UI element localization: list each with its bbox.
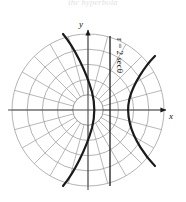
cartesian-axes bbox=[8, 30, 166, 190]
directrix-equation-label: r = 2 secθ bbox=[115, 38, 125, 73]
hyperbola-right-branch bbox=[128, 56, 155, 166]
y-axis-label: y bbox=[78, 19, 83, 29]
figure-root: the hyperbola bbox=[0, 0, 186, 202]
polar-plot-svg: x y r = 2 secθ bbox=[0, 0, 186, 202]
x-axis-label: x bbox=[168, 111, 173, 121]
